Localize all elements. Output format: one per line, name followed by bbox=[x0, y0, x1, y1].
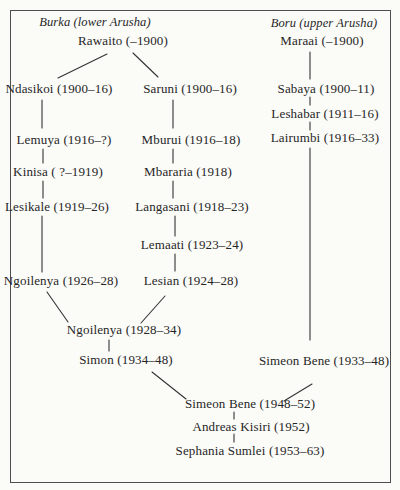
tree-node-lairumbi: Lairumbi (1916–33) bbox=[271, 130, 379, 146]
tree-node-lesikale: Lesikale (1919–26) bbox=[5, 199, 109, 215]
tree-node-andreas-kisiri: Andreas Kisiri (1952) bbox=[192, 419, 309, 435]
page-background: Burka (lower Arusha) Boru (upper Arusha)… bbox=[0, 0, 400, 490]
tree-node-lesian: Lesian (1924–28) bbox=[144, 273, 238, 289]
tree-node-lemuya: Lemuya (1916–?) bbox=[16, 132, 111, 148]
tree-node-maraai: Maraai (–1900) bbox=[280, 33, 363, 49]
tree-node-mbararia: Mbararia (1918) bbox=[144, 164, 232, 180]
tree-node-ndasikoi: Ndasikoi (1900–16) bbox=[5, 81, 112, 97]
tree-node-leshabar: Leshabar (1911–16) bbox=[271, 106, 378, 122]
tree-node-simeon-bene-1948: Simeon Bene (1948–52) bbox=[185, 396, 315, 412]
tree-node-saruni: Saruni (1900–16) bbox=[143, 81, 237, 97]
tree-node-langasani: Langasani (1918–23) bbox=[135, 199, 249, 215]
tree-node-rawaito: Rawaito (–1900) bbox=[78, 33, 168, 49]
column-header-boru: Boru (upper Arusha) bbox=[271, 16, 378, 31]
tree-node-sephania-sumlei: Sephania Sumlei (1953–63) bbox=[176, 443, 325, 459]
tree-node-kinisa: Kinisa ( ?–1919) bbox=[13, 164, 103, 180]
tree-node-simon: Simon (1934–48) bbox=[79, 352, 173, 368]
tree-node-sabaya: Sabaya (1900–11) bbox=[278, 81, 375, 97]
tree-node-mburui: Mburui (1916–18) bbox=[142, 132, 241, 148]
tree-node-ngoilenya-1928: Ngoilenya (1928–34) bbox=[67, 322, 181, 338]
tree-node-ngoilenya-1926: Ngoilenya (1926–28) bbox=[4, 273, 118, 289]
tree-node-simeon-bene-1933: Simeon Bene (1933–48) bbox=[259, 353, 389, 369]
column-header-burka: Burka (lower Arusha) bbox=[39, 15, 151, 30]
tree-node-lemaati: Lemaati (1923–24) bbox=[141, 237, 244, 253]
